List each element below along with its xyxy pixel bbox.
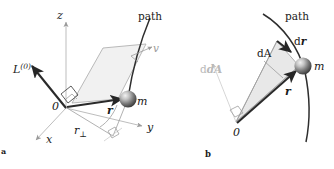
panel-letter-b: b — [205, 149, 211, 159]
physics-figure: z x y 0 L(0) r r⊥ m v path — [0, 0, 334, 169]
panel-letter-a: a — [1, 146, 6, 156]
panel-a-group: z x y 0 L(0) r r⊥ m v path — [12, 9, 162, 146]
displacement-symbol: r — [301, 35, 308, 47]
y-axis-label: y — [146, 121, 154, 134]
z-axis-label: z — [56, 9, 63, 22]
position-vector-label-b: r — [285, 85, 292, 98]
path-label-a: path — [138, 10, 162, 22]
origin-label-a: 0 — [52, 100, 59, 113]
area-vector-label: ddA — [200, 63, 222, 75]
displacement-label-b: dr — [294, 35, 308, 47]
mass-label-a: m — [137, 95, 147, 108]
angular-momentum-superscript: (0) — [20, 62, 31, 71]
figure-canvas: z x y 0 L(0) r r⊥ m v path — [0, 0, 334, 169]
mass-sphere-b — [294, 57, 311, 74]
path-label-b: path — [285, 10, 309, 22]
angular-momentum-label: L(0) — [12, 62, 31, 76]
angular-momentum-vector — [32, 66, 66, 108]
mass-sphere-a — [119, 90, 136, 107]
mass-label-b: m — [314, 60, 324, 73]
perp-distance-label: r⊥ — [74, 124, 87, 139]
panel-b-group: path dA ddA dr r m 0 — [200, 10, 324, 142]
velocity-label: v — [153, 42, 159, 54]
area-element-label: dA — [257, 47, 272, 59]
origin-label-b: 0 — [233, 126, 240, 139]
x-axis-label: x — [46, 133, 53, 146]
area-vector-symbol: dA — [207, 63, 223, 75]
position-vector-label-a: r — [107, 104, 114, 117]
perp-distance-subscript: ⊥ — [79, 130, 87, 139]
r-perp-extension — [104, 128, 122, 141]
right-angle-marker-perp — [108, 127, 119, 138]
